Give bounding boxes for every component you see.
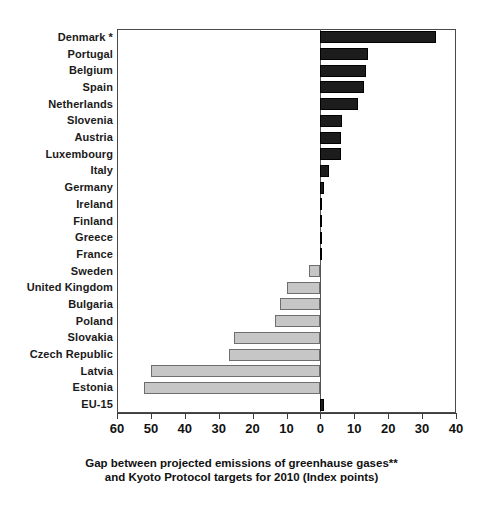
chart-caption: Gap between projected emissions of green… [0,456,483,484]
category-label: Sweden [0,266,113,277]
category-label: Austria [0,132,113,143]
x-tick [253,413,254,419]
gap-emissions-bar-chart: Denmark *PortugalBelgiumSpainNetherlands… [0,0,483,511]
x-tick-label: 20 [373,421,403,436]
x-tick-label: 30 [204,421,234,436]
x-tick [320,413,321,419]
x-tick-label: 20 [238,421,268,436]
category-label: Slovakia [0,332,113,343]
category-label: Bulgaria [0,299,113,310]
x-tick [185,413,186,419]
x-tick-label: 30 [407,421,437,436]
x-tick [354,413,355,419]
category-label: United Kingdom [0,282,113,293]
category-label: Czech Republic [0,349,113,360]
category-label: Spain [0,82,113,93]
caption-line-1: Gap between projected emissions of green… [0,456,483,470]
x-tick-label: 40 [441,421,471,436]
x-tick-label: 50 [136,421,166,436]
x-tick-label: 10 [339,421,369,436]
x-tick [456,413,457,419]
x-tick-label: 40 [170,421,200,436]
x-tick-label: 0 [305,421,335,436]
x-tick-label: 10 [272,421,302,436]
x-tick [219,413,220,419]
category-label: Estonia [0,382,113,393]
category-label: Luxembourg [0,149,113,160]
caption-line-2: and Kyoto Protocol targets for 2010 (Ind… [0,470,483,484]
category-label: Poland [0,316,113,327]
x-tick [422,413,423,419]
category-label: Latvia [0,366,113,377]
category-label: Greece [0,232,113,243]
category-label: Slovenia [0,115,113,126]
category-label: EU-15 [0,399,113,410]
category-label: Italy [0,165,113,176]
x-tick [388,413,389,419]
category-label: France [0,249,113,260]
category-label: Ireland [0,199,113,210]
category-label: Germany [0,182,113,193]
x-tick [117,413,118,419]
category-label: Finland [0,216,113,227]
category-axis-labels: Denmark *PortugalBelgiumSpainNetherlands… [0,29,113,413]
plot-area-frame [117,29,456,413]
x-tick-label: 60 [102,421,132,436]
category-label: Belgium [0,65,113,76]
x-tick [151,413,152,419]
category-label: Netherlands [0,99,113,110]
category-label: Denmark * [0,32,113,43]
x-tick [287,413,288,419]
category-label: Portugal [0,49,113,60]
